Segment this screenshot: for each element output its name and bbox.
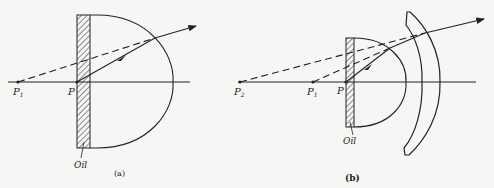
label-p: P xyxy=(67,86,75,97)
caption-b: (b) xyxy=(345,173,360,183)
emergent-ray xyxy=(155,26,196,38)
label-p2: P2 xyxy=(233,86,245,98)
emergent-ray xyxy=(425,19,484,33)
point-p1-dot xyxy=(311,80,314,83)
point-p-dot xyxy=(344,80,347,83)
label-p: P xyxy=(336,85,344,96)
virtual-ray-dashed-p2 xyxy=(240,33,425,82)
label-p1: P1 xyxy=(306,86,318,98)
panel-a: P1 P Oil (a) xyxy=(8,15,196,178)
point-p1-dot xyxy=(16,80,19,83)
ray-arrowhead-icon xyxy=(117,55,126,61)
label-oil: Oil xyxy=(343,136,356,146)
label-oil: Oil xyxy=(74,160,87,170)
point-p2-dot xyxy=(238,80,241,83)
optics-diagram: P1 P Oil (a) P2 P1 P Oil (b) xyxy=(0,0,494,188)
point-p-dot xyxy=(75,80,78,83)
panel-b: P2 P1 P Oil (b) xyxy=(233,12,484,183)
label-p1: P1 xyxy=(12,86,24,98)
caption-a: (a) xyxy=(114,169,125,178)
